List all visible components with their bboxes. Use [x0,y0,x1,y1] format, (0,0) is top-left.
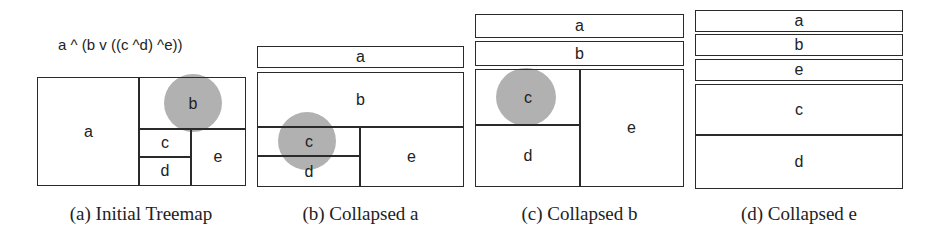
label-a: a [257,46,464,68]
label-b: b [695,34,903,56]
label-d: d [257,157,361,187]
caption: (d) Collapsed e [695,203,903,225]
boolean-formula: a ^ (b v ((c ^d) ^e)) [58,36,182,53]
label-d: d [138,156,192,186]
label-d: d [695,134,903,189]
label-a: a [475,14,684,38]
caption: (b) Collapsed a [257,203,464,225]
label-b: b [475,41,684,66]
caption: (a) Initial Treemap [37,203,245,225]
label-c: c [475,69,581,126]
caption: (c) Collapsed b [475,203,684,225]
label-d: d [475,124,581,187]
label-e: e [190,128,246,186]
label-e: e [695,59,903,81]
label-c: c [257,126,361,157]
label-c: c [695,84,903,136]
label-e: e [359,126,464,187]
label-b: b [164,77,222,130]
label-b: b [257,72,464,128]
label-a: a [37,77,140,186]
label-e: e [579,69,684,187]
label-a: a [695,10,903,32]
label-c: c [138,128,192,158]
